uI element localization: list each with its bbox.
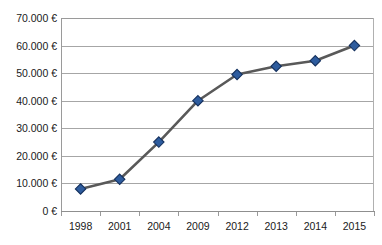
y-axis-tick-label: 20.000 € [1,150,57,162]
x-axis-tick-label: 2014 [304,220,327,232]
x-axis-tick [374,212,375,216]
y-axis [61,18,62,212]
x-axis-tick-label: 2013 [265,220,288,232]
x-axis-tick-label: 2015 [343,220,366,232]
x-axis-tick [178,212,179,216]
x-axis-tick-label: 2001 [108,220,131,232]
data-point-marker: 2014: 54.500 € [310,56,320,66]
x-axis-tick-label: 1998 [69,220,92,232]
x-axis-tick [296,212,297,216]
x-axis-tick-label: 2004 [147,220,170,232]
y-axis-tick-labels: 70.000 €60.000 €50.000 €40.000 €30.000 €… [0,18,57,212]
x-axis-tick-labels: 19982001200420092012201320142015 [61,220,375,238]
y-axis-tick-label: 60.000 € [1,40,57,52]
x-axis-tick-label: 2012 [225,220,248,232]
x-axis-tick [335,212,336,216]
data-point-marker: 2013: 52.500 € [271,61,281,71]
x-axis-tick [218,212,219,216]
y-axis-tick-label: 70.000 € [1,12,57,24]
y-axis-tick-label: 0 € [1,205,57,217]
x-axis-tick-label: 2009 [186,220,209,232]
x-axis-tick [61,212,62,216]
y-axis-tick-label: 10.000 € [1,177,57,189]
line-chart: 1998: 8.000 €2001: 11.500 €2004: 25.000 … [0,0,382,245]
data-point-marker: 1998: 8.000 € [75,184,85,194]
x-axis [61,211,375,212]
y-axis-tick-label: 30.000 € [1,122,57,134]
y-axis-tick-label: 40.000 € [1,95,57,107]
chart-title [0,0,382,5]
x-axis-tick [100,212,101,216]
y-axis-tick-label: 50.000 € [1,67,57,79]
plot-area: 1998: 8.000 €2001: 11.500 €2004: 25.000 … [61,18,374,211]
x-axis-tick [257,212,258,216]
series-polyline [81,46,355,189]
x-axis-tick [139,212,140,216]
series-line: 1998: 8.000 €2001: 11.500 €2004: 25.000 … [61,18,374,211]
data-point-marker: 2015: 60.000 € [349,40,359,50]
